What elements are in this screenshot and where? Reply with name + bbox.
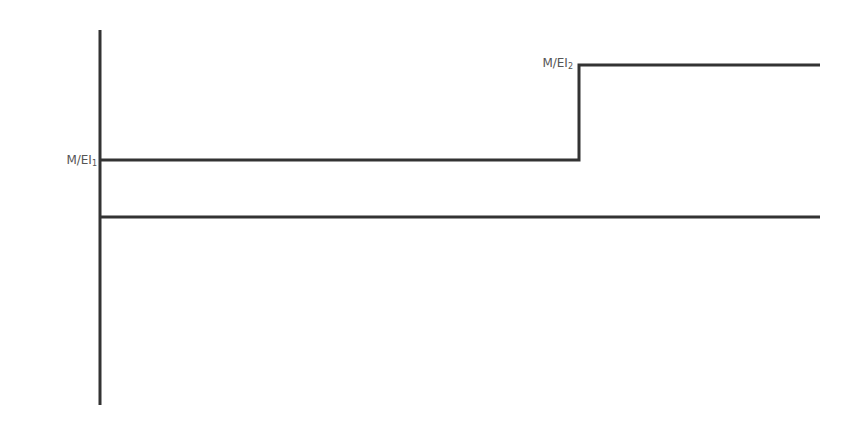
label-m-ei-1-main: M/EI [66,153,92,167]
label-m-ei-2: M/EI2 [542,56,573,70]
label-m-ei-2-subscript: 2 [568,62,573,71]
m-ei-diagram [0,0,857,430]
label-m-ei-1: M/EI1 [66,153,97,167]
m-ei-step-line [100,65,820,160]
label-m-ei-1-subscript: 1 [92,159,97,168]
label-m-ei-2-main: M/EI [542,56,568,70]
